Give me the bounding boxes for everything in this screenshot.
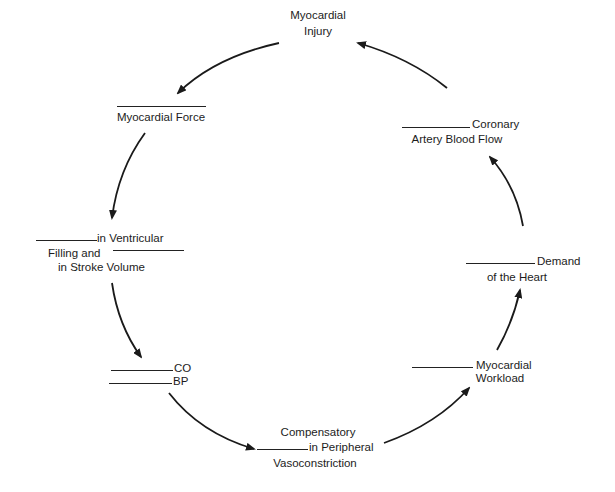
blank-compensatory: [257, 449, 308, 450]
blank-stroke-volume: [113, 250, 184, 251]
blank-demand: [466, 263, 535, 264]
node-co-label: CO: [174, 361, 191, 375]
arrow-injury-to-force: [178, 43, 279, 93]
node-demand-line2: of the Heart: [487, 270, 547, 284]
node-compensatory-line3: Vasoconstriction: [273, 456, 357, 470]
arrow-coronary-to-injury: [358, 43, 447, 88]
arrow-demand-to-coronary: [490, 157, 523, 226]
node-injury-line2: Injury: [304, 24, 332, 38]
node-coronary-line1: Coronary: [472, 117, 519, 131]
node-workload-line2: Workload: [476, 371, 524, 385]
node-bp-label: BP: [173, 374, 188, 388]
node-force-label: Myocardial Force: [117, 110, 205, 124]
node-coronary-line2: Artery Blood Flow: [412, 132, 503, 146]
node-ventricular-line2: Filling and: [48, 246, 100, 260]
arrow-workload-to-demand: [497, 290, 520, 350]
node-demand-line1: Demand: [537, 254, 580, 268]
node-workload-line1: Myocardial: [476, 358, 532, 372]
arrow-force-to-ventricular: [112, 133, 145, 218]
node-injury-line1: Myocardial: [290, 8, 346, 22]
blank-workload: [412, 367, 473, 368]
node-ventricular-line3: in Stroke Volume: [58, 260, 145, 274]
blank-co: [111, 370, 173, 371]
blank-bp: [109, 383, 172, 384]
node-compensatory-line1: Compensatory: [281, 425, 356, 439]
arrow-ventricular-to-cobp: [112, 283, 141, 357]
node-compensatory-line2: in Peripheral: [309, 440, 374, 454]
arrow-cobp-to-compensatory: [169, 393, 254, 449]
blank-ventricular: [36, 240, 97, 241]
blank-coronary: [402, 127, 470, 128]
arrow-compensatory-to-workload: [384, 388, 469, 443]
blank-force: [117, 106, 206, 107]
cycle-diagram: Myocardial Injury Myocardial Force in Ve…: [0, 0, 615, 492]
node-ventricular-line1: in Ventricular: [97, 231, 163, 245]
